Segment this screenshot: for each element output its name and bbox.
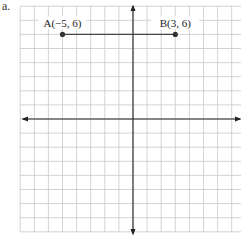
point-label-a: A(−5, 6) — [44, 17, 82, 30]
point-label-b: B(3, 6) — [160, 17, 192, 30]
axes — [23, 6, 240, 234]
coordinate-plane-figure: a. A(−5, 6)B(3, 6) — [0, 0, 241, 238]
point-a — [60, 32, 65, 37]
coordinate-grid: A(−5, 6)B(3, 6) — [0, 0, 241, 238]
part-label: a. — [2, 0, 10, 14]
point-b — [173, 32, 178, 37]
